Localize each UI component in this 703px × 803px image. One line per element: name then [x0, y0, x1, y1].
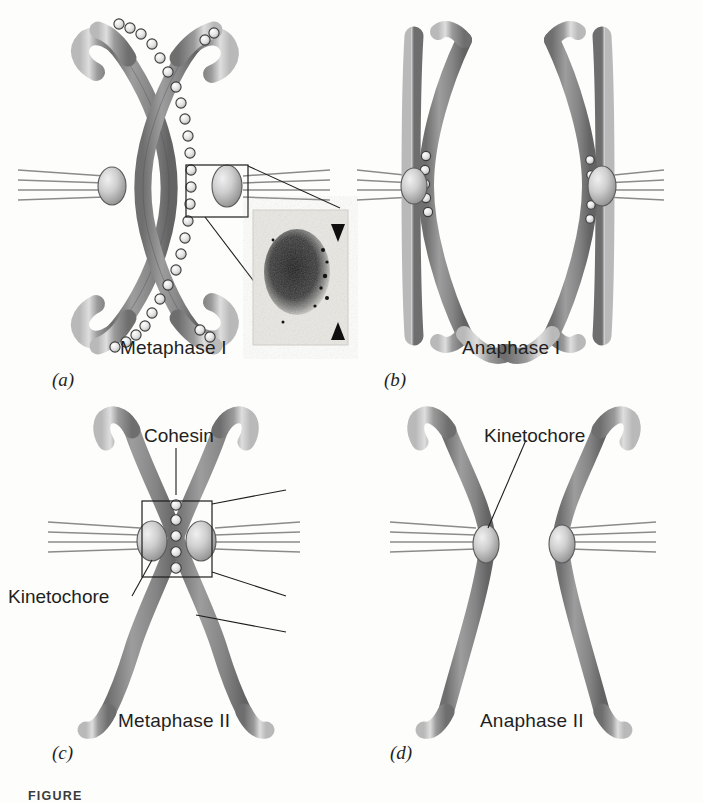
label-kinetochore-c: Kinetochore — [8, 586, 109, 608]
panel-letter-a: (a) — [52, 369, 74, 391]
panel-metaphase-ii: Cohesin Kinetochore Metaphase II (c) — [0, 400, 352, 780]
kinetochore-left — [473, 525, 499, 563]
stage-label-anaphase-ii: Anaphase II — [480, 710, 584, 732]
kinetochore-left — [98, 167, 126, 205]
microtubule-bundle-left — [18, 170, 105, 200]
stage-label-anaphase-i: Anaphase I — [462, 337, 560, 359]
panel-letter-b: (b) — [384, 369, 406, 391]
callout-leader-line — [488, 440, 526, 528]
kinetochore-left — [401, 168, 427, 204]
label-cohesin: Cohesin — [144, 425, 214, 447]
label-kinetochore-d: Kinetochore — [484, 425, 585, 447]
microtubule-bundle-left — [390, 522, 476, 552]
chromatid-right — [560, 415, 632, 731]
kinetochore-right — [549, 525, 575, 563]
stage-label-metaphase-i: Metaphase I — [120, 337, 227, 359]
microtubule-bundle-right — [243, 170, 330, 200]
anaphase-ii-illustration — [352, 400, 703, 730]
panel-anaphase-i: Anaphase I (b) — [352, 0, 703, 400]
anaphase-i-illustration — [352, 0, 703, 360]
sister-chromatid-left — [86, 415, 176, 731]
stage-label-metaphase-ii: Metaphase II — [118, 710, 230, 732]
microtubule-bundle-left — [48, 522, 140, 552]
chromatid-left — [416, 415, 488, 731]
panel-anaphase-ii: Kinetochore Anaphase II (d) — [352, 400, 703, 780]
panel-metaphase-i: Metaphase I (a) — [0, 0, 352, 400]
metaphase-ii-illustration — [0, 400, 352, 730]
sister-chromatid-right — [176, 415, 266, 731]
micrograph-inset-metaphase-i — [253, 210, 348, 345]
figure-caption: FIGURE — [28, 789, 82, 803]
meiosis-figure: Metaphase I (a) — [0, 0, 703, 803]
kinetochore-right — [212, 165, 242, 207]
panel-letter-c: (c) — [52, 742, 73, 764]
kinetochore-right — [588, 166, 616, 206]
panel-letter-d: (d) — [390, 742, 412, 764]
microtubule-bundle-right — [570, 522, 656, 552]
microtubule-bundle-right — [215, 522, 300, 552]
